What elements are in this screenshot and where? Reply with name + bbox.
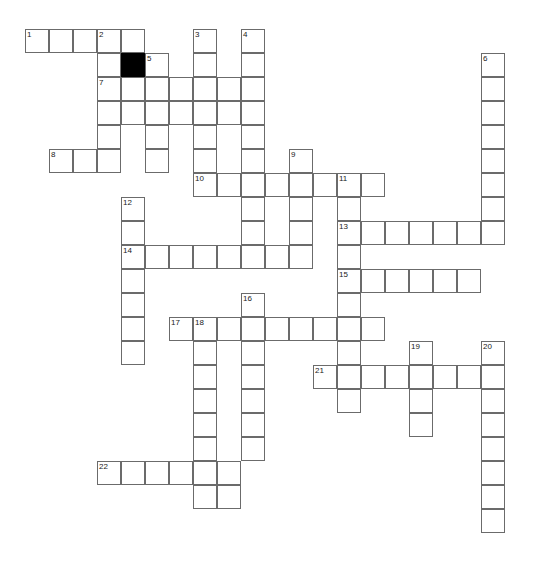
- grid-cell[interactable]: [121, 221, 145, 245]
- grid-cell[interactable]: [409, 413, 433, 437]
- grid-cell[interactable]: [241, 293, 265, 317]
- grid-cell[interactable]: [481, 197, 505, 221]
- grid-cell[interactable]: [241, 245, 265, 269]
- grid-cell[interactable]: [481, 221, 505, 245]
- grid-cell[interactable]: [121, 461, 145, 485]
- grid-cell[interactable]: [193, 413, 217, 437]
- grid-cell[interactable]: [433, 365, 457, 389]
- grid-cell[interactable]: [169, 245, 193, 269]
- grid-cell[interactable]: [145, 101, 169, 125]
- grid-cell[interactable]: [145, 461, 169, 485]
- grid-cell[interactable]: [337, 293, 361, 317]
- grid-cell[interactable]: [337, 269, 361, 293]
- grid-cell[interactable]: [169, 101, 193, 125]
- grid-cell[interactable]: [241, 437, 265, 461]
- grid-cell[interactable]: [433, 269, 457, 293]
- grid-cell[interactable]: [241, 53, 265, 77]
- grid-cell[interactable]: [241, 317, 265, 341]
- grid-cell[interactable]: [121, 293, 145, 317]
- grid-cell[interactable]: [265, 317, 289, 341]
- grid-cell[interactable]: [481, 149, 505, 173]
- grid-cell[interactable]: [193, 101, 217, 125]
- grid-cell[interactable]: [481, 101, 505, 125]
- grid-cell[interactable]: [313, 173, 337, 197]
- grid-cell[interactable]: [73, 29, 97, 53]
- grid-cell[interactable]: [217, 245, 241, 269]
- grid-cell[interactable]: [193, 149, 217, 173]
- grid-cell[interactable]: [481, 341, 505, 365]
- grid-cell[interactable]: [217, 101, 241, 125]
- grid-cell[interactable]: [73, 149, 97, 173]
- grid-cell[interactable]: [121, 101, 145, 125]
- grid-cell[interactable]: [121, 197, 145, 221]
- grid-cell[interactable]: [169, 317, 193, 341]
- grid-cell[interactable]: [385, 269, 409, 293]
- grid-cell[interactable]: [193, 173, 217, 197]
- grid-cell[interactable]: [361, 365, 385, 389]
- grid-cell[interactable]: [457, 221, 481, 245]
- grid-cell[interactable]: [217, 173, 241, 197]
- grid-cell[interactable]: [241, 365, 265, 389]
- grid-cell[interactable]: [241, 101, 265, 125]
- grid-cell[interactable]: [49, 149, 73, 173]
- grid-cell[interactable]: [289, 197, 313, 221]
- grid-cell[interactable]: [193, 245, 217, 269]
- grid-cell[interactable]: [193, 437, 217, 461]
- grid-cell[interactable]: [265, 245, 289, 269]
- grid-cell[interactable]: [481, 413, 505, 437]
- grid-cell[interactable]: [193, 389, 217, 413]
- grid-cell[interactable]: [97, 101, 121, 125]
- grid-cell[interactable]: [97, 461, 121, 485]
- grid-cell[interactable]: [241, 341, 265, 365]
- grid-cell[interactable]: [121, 317, 145, 341]
- grid-cell[interactable]: [97, 149, 121, 173]
- grid-cell[interactable]: [193, 365, 217, 389]
- grid-cell[interactable]: [145, 149, 169, 173]
- grid-cell[interactable]: [481, 437, 505, 461]
- grid-cell[interactable]: [289, 173, 313, 197]
- grid-cell[interactable]: [241, 413, 265, 437]
- grid-cell[interactable]: [481, 365, 505, 389]
- grid-cell[interactable]: [241, 389, 265, 413]
- grid-cell[interactable]: [361, 221, 385, 245]
- grid-cell[interactable]: [289, 221, 313, 245]
- grid-cell[interactable]: [145, 77, 169, 101]
- grid-cell[interactable]: [193, 317, 217, 341]
- grid-cell[interactable]: [361, 317, 385, 341]
- grid-cell[interactable]: [313, 365, 337, 389]
- grid-cell[interactable]: [361, 173, 385, 197]
- grid-cell[interactable]: [121, 245, 145, 269]
- grid-cell[interactable]: [289, 245, 313, 269]
- grid-cell[interactable]: [193, 125, 217, 149]
- grid-cell[interactable]: [193, 77, 217, 101]
- grid-cell[interactable]: [289, 149, 313, 173]
- grid-cell[interactable]: [337, 389, 361, 413]
- grid-cell[interactable]: [241, 77, 265, 101]
- grid-cell[interactable]: [409, 389, 433, 413]
- grid-cell[interactable]: [385, 221, 409, 245]
- grid-cell[interactable]: [385, 365, 409, 389]
- grid-cell[interactable]: [481, 125, 505, 149]
- grid-cell[interactable]: [481, 389, 505, 413]
- grid-cell[interactable]: [265, 173, 289, 197]
- grid-cell[interactable]: [193, 485, 217, 509]
- grid-cell[interactable]: [481, 77, 505, 101]
- grid-cell[interactable]: [289, 317, 313, 341]
- grid-cell[interactable]: [193, 53, 217, 77]
- grid-cell[interactable]: [121, 77, 145, 101]
- grid-cell[interactable]: [97, 77, 121, 101]
- grid-cell[interactable]: [457, 269, 481, 293]
- grid-cell[interactable]: [481, 461, 505, 485]
- grid-cell[interactable]: [169, 77, 193, 101]
- grid-cell[interactable]: [241, 221, 265, 245]
- grid-cell[interactable]: [241, 173, 265, 197]
- grid-cell[interactable]: [241, 29, 265, 53]
- grid-cell[interactable]: [97, 29, 121, 53]
- grid-cell[interactable]: [337, 173, 361, 197]
- grid-cell[interactable]: [49, 29, 73, 53]
- grid-cell[interactable]: [433, 221, 457, 245]
- grid-cell[interactable]: [337, 197, 361, 221]
- grid-cell[interactable]: [97, 125, 121, 149]
- grid-cell[interactable]: [409, 221, 433, 245]
- grid-cell[interactable]: [97, 53, 121, 77]
